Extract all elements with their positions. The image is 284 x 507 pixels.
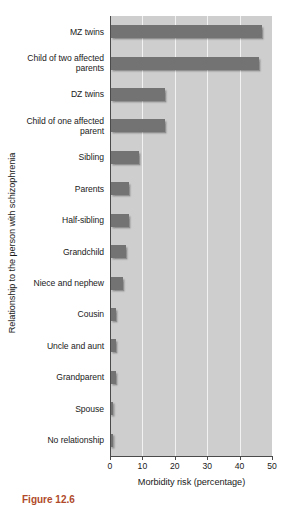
bar-row	[110, 16, 272, 47]
bar-row	[110, 173, 272, 204]
x-tick-label: 20	[165, 461, 185, 471]
x-tick-mark	[175, 457, 176, 460]
category-label: Grandparent	[20, 362, 107, 393]
bar-row	[110, 236, 272, 267]
category-label: Half-sibling	[20, 205, 107, 236]
x-tick-label: 10	[132, 461, 152, 471]
x-tick-mark	[272, 457, 273, 460]
category-label: MZ twins	[20, 16, 107, 47]
bar-row	[110, 393, 272, 424]
category-label: Uncle and aunt	[20, 330, 107, 361]
category-label: Grandchild	[20, 236, 107, 267]
category-label: Sibling	[20, 142, 107, 173]
x-tick-mark	[207, 457, 208, 460]
bar	[110, 57, 259, 70]
y-axis-title: Relationship to the person with schizoph…	[7, 83, 17, 403]
x-tick-mark	[142, 457, 143, 460]
bar-row	[110, 267, 272, 298]
bar	[110, 25, 262, 38]
category-label-column: MZ twinsChild of two affected parentsDZ …	[20, 16, 107, 456]
bar	[110, 119, 165, 132]
x-axis-line	[110, 456, 273, 457]
plot-area	[110, 16, 272, 456]
category-label: Parents	[20, 173, 107, 204]
x-tick-mark	[240, 457, 241, 460]
bar-row	[110, 424, 272, 455]
bar	[110, 182, 129, 195]
x-tick-label: 40	[230, 461, 250, 471]
x-tick-label: 30	[197, 461, 217, 471]
bar-row	[110, 142, 272, 173]
category-label: Cousin	[20, 299, 107, 330]
x-tick-label: 0	[100, 461, 120, 471]
category-label: Child of two affected parents	[20, 47, 107, 78]
category-label: No relationship	[20, 424, 107, 455]
category-label: Spouse	[20, 393, 107, 424]
x-tick-mark	[110, 457, 111, 460]
category-label: DZ twins	[20, 79, 107, 110]
y-axis-line	[110, 16, 111, 457]
x-tick-label: 50	[262, 461, 282, 471]
bar-row	[110, 110, 272, 141]
x-axis-title: Morbidity risk (percentage)	[110, 477, 273, 487]
bar	[110, 277, 123, 290]
category-label: Child of one affected parent	[20, 110, 107, 141]
bar-row	[110, 299, 272, 330]
bar-series	[110, 16, 272, 456]
bar-row	[110, 330, 272, 361]
bar-row	[110, 47, 272, 78]
bar	[110, 214, 129, 227]
bar	[110, 151, 139, 164]
figure-container: Relationship to the person with schizoph…	[0, 0, 284, 507]
category-label: Niece and nephew	[20, 267, 107, 298]
bar	[110, 88, 165, 101]
bar-row	[110, 205, 272, 236]
bar-row	[110, 362, 272, 393]
bar	[110, 245, 126, 258]
bar-row	[110, 79, 272, 110]
figure-caption: Figure 12.6	[22, 494, 75, 507]
